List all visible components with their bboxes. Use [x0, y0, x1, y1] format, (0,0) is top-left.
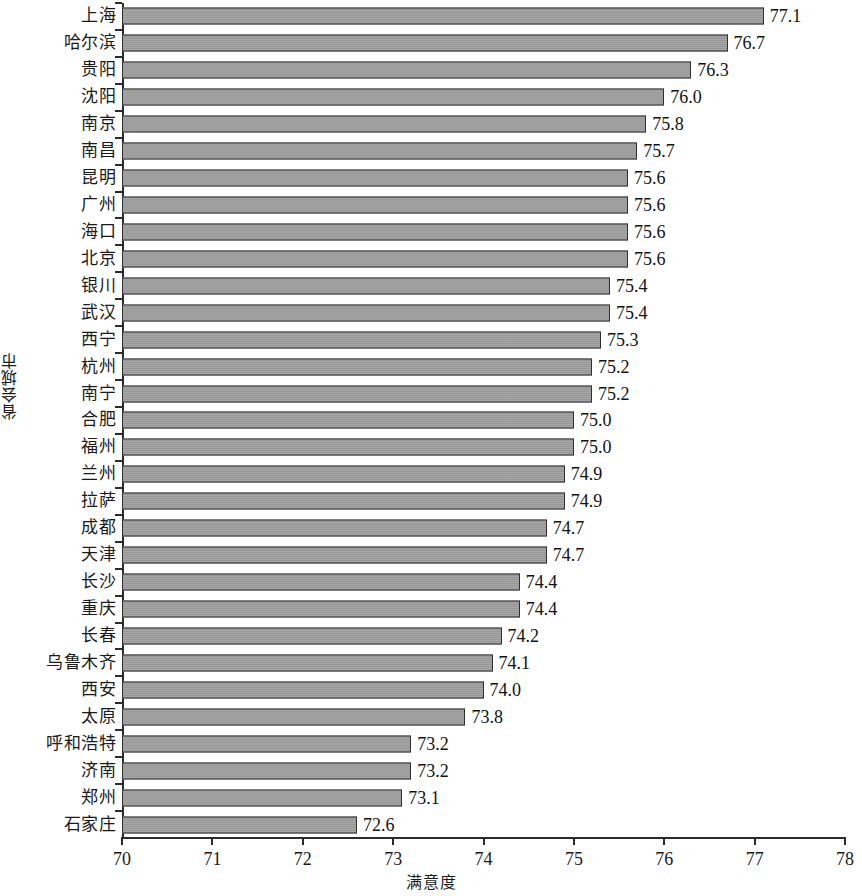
- category-label: 福州: [81, 437, 116, 457]
- y-axis-tick: [115, 83, 122, 85]
- bar-value-label: 74.9: [571, 464, 603, 484]
- x-axis-tick: [211, 837, 213, 845]
- y-axis-tick: [115, 244, 122, 246]
- category-label: 海口: [81, 222, 116, 242]
- bar: [122, 627, 502, 644]
- bar-value-label: 73.8: [471, 707, 503, 727]
- bar-value-label: 75.8: [652, 114, 684, 134]
- y-axis-tick: [115, 164, 122, 166]
- bar-value-label: 75.3: [607, 330, 639, 350]
- bar: [122, 466, 565, 483]
- y-axis-tick: [115, 217, 122, 219]
- bar: [122, 277, 610, 294]
- bar-value-label: 74.9: [571, 491, 603, 511]
- bar-value-label: 74.1: [499, 653, 531, 673]
- y-axis-tick: [115, 191, 122, 193]
- bar: [122, 250, 628, 267]
- x-axis-tick-label: 70: [113, 849, 131, 869]
- category-label: 杭州: [81, 357, 116, 377]
- bar-row: 天津74.7: [122, 542, 845, 569]
- bar: [122, 493, 565, 510]
- bar-row: 海口75.6: [122, 218, 845, 245]
- bar-row: 石家庄72.6: [122, 811, 845, 838]
- category-label: 贵阳: [81, 60, 116, 80]
- y-axis-tick: [115, 487, 122, 489]
- category-label: 郑州: [81, 788, 116, 808]
- category-label: 哈尔滨: [64, 33, 117, 53]
- bar-value-label: 76.0: [670, 87, 702, 107]
- bar: [122, 439, 574, 456]
- category-label: 石家庄: [64, 815, 117, 835]
- category-label: 北京: [81, 249, 116, 269]
- bar-row: 沈阳76.0: [122, 84, 845, 111]
- bar-row: 哈尔滨76.7: [122, 30, 845, 57]
- y-axis-tick: [115, 756, 122, 758]
- bar: [122, 601, 520, 618]
- bar: [122, 735, 411, 752]
- bar: [122, 520, 547, 537]
- bar-row: 西宁75.3: [122, 326, 845, 353]
- x-axis-tick-label: 77: [746, 849, 764, 869]
- bar: [122, 170, 628, 187]
- category-label: 昆明: [81, 168, 116, 188]
- bar: [122, 223, 628, 240]
- x-axis-tick: [483, 837, 485, 845]
- bar: [122, 816, 357, 833]
- bar-value-label: 75.0: [580, 437, 612, 457]
- category-label: 上海: [81, 6, 116, 26]
- bar: [122, 358, 592, 375]
- bar-row: 合肥75.0: [122, 407, 845, 434]
- bar: [122, 708, 465, 725]
- y-axis-title: 省会城市: [2, 352, 28, 420]
- bar-row: 上海77.1: [122, 3, 845, 30]
- bar: [122, 304, 610, 321]
- bar: [122, 8, 764, 25]
- bar-row: 西安74.0: [122, 676, 845, 703]
- y-axis-tick: [115, 406, 122, 408]
- bar-value-label: 74.4: [526, 572, 558, 592]
- category-label: 西安: [81, 680, 116, 700]
- category-label: 长沙: [81, 572, 116, 592]
- bar-value-label: 74.0: [490, 680, 522, 700]
- bar: [122, 789, 402, 806]
- bar: [122, 547, 547, 564]
- bar-value-label: 74.7: [553, 545, 585, 565]
- y-axis-tick: [115, 595, 122, 597]
- bar: [122, 62, 691, 79]
- x-axis-tick-label: 74: [475, 849, 493, 869]
- x-axis-tick-label: 71: [203, 849, 221, 869]
- category-label: 南宁: [81, 384, 116, 404]
- bar-value-label: 73.2: [417, 761, 449, 781]
- bar: [122, 654, 493, 671]
- bar-value-label: 76.3: [697, 60, 729, 80]
- bar-row: 郑州73.1: [122, 784, 845, 811]
- x-axis-tick: [844, 837, 846, 845]
- category-label: 太原: [81, 707, 116, 727]
- bar-row: 兰州74.9: [122, 461, 845, 488]
- y-axis-tick: [115, 29, 122, 31]
- bar-value-label: 75.6: [634, 222, 666, 242]
- bar-value-label: 77.1: [770, 6, 802, 26]
- category-label: 天津: [81, 545, 116, 565]
- bar-row: 太原73.8: [122, 703, 845, 730]
- bar-value-label: 75.4: [616, 276, 648, 296]
- bar-row: 南昌75.7: [122, 138, 845, 165]
- bar: [122, 681, 484, 698]
- category-label: 广州: [81, 195, 116, 215]
- x-axis-tick: [121, 837, 123, 845]
- x-axis-tick-label: 75: [565, 849, 583, 869]
- bar-row: 广州75.6: [122, 192, 845, 219]
- bar-value-label: 72.6: [363, 815, 395, 835]
- x-axis-tick-label: 72: [294, 849, 312, 869]
- bar-row: 银川75.4: [122, 272, 845, 299]
- bar: [122, 331, 601, 348]
- bar-value-label: 75.2: [598, 384, 630, 404]
- bar: [122, 574, 520, 591]
- x-axis-tick: [754, 837, 756, 845]
- y-axis-tick: [115, 810, 122, 812]
- bar-value-label: 76.7: [734, 33, 766, 53]
- x-axis-tick: [573, 837, 575, 845]
- bar-row: 贵阳76.3: [122, 57, 845, 84]
- x-axis-tick: [302, 837, 304, 845]
- bar-value-label: 75.2: [598, 357, 630, 377]
